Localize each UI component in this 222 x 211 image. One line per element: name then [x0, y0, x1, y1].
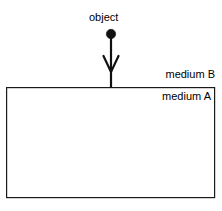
- medium-b-label: medium B: [165, 68, 215, 80]
- object-label: object: [89, 11, 118, 23]
- object-dot: [106, 29, 115, 38]
- diagram-graphics: [0, 0, 222, 211]
- diagram-canvas: object medium B medium A: [0, 0, 222, 211]
- medium-a-boundary-box: [7, 88, 215, 198]
- medium-a-label: medium A: [162, 90, 211, 102]
